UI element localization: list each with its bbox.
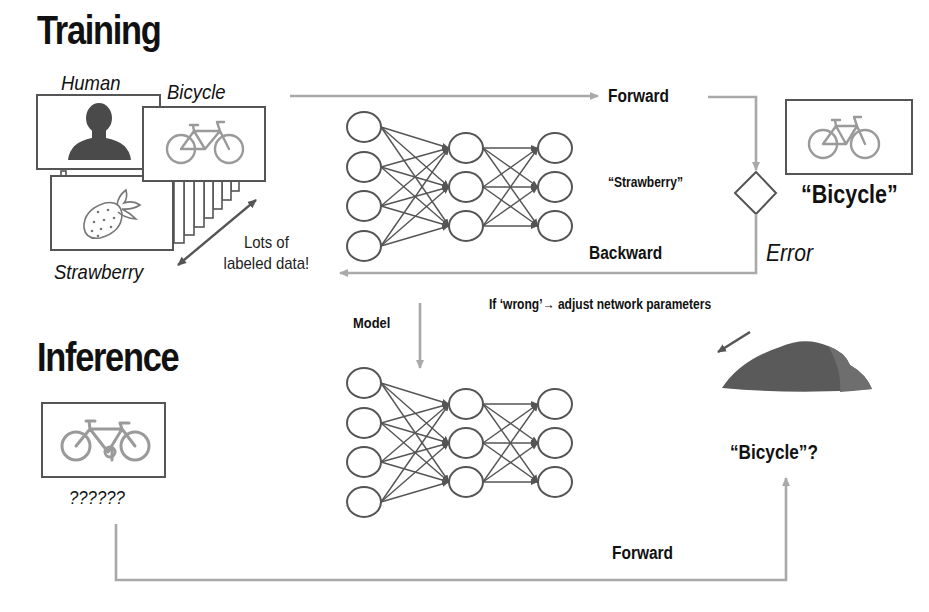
inference-forward-label: Forward (612, 543, 673, 564)
loss-hill-icon (722, 341, 872, 392)
error-label: Error (766, 239, 813, 267)
result-label: “Bicycle”? (730, 441, 818, 464)
unknown-label: ?????? (69, 487, 125, 509)
human-label: Human (61, 71, 121, 95)
forward-label: Forward (608, 86, 669, 107)
bicycle-card (143, 107, 265, 181)
strawberry-label: Strawberry (54, 260, 143, 284)
descent-arrow (718, 332, 750, 352)
inference-forward-arrow (116, 478, 786, 580)
bicycle-label: Bicycle (167, 80, 226, 104)
dataset-note-line1: Lots of (218, 232, 315, 253)
inference-neural-network (347, 368, 572, 517)
backward-label: Backward (589, 243, 662, 264)
diagram-canvas (0, 0, 929, 612)
inference-title: Inference (37, 335, 178, 380)
dataset-note: Lots of labeled data! (218, 232, 315, 274)
model-label: Model (353, 314, 390, 331)
diamond-decision-icon (735, 172, 776, 214)
dataset-note-line2: labeled data! (218, 253, 315, 274)
prediction-label: “Strawberry” (608, 174, 683, 190)
training-title: Training (37, 8, 160, 53)
adjust-note: If ‘wrong’→ adjust network parameters (489, 296, 711, 312)
ground-truth-label: “Bicycle” (801, 180, 898, 209)
training-neural-network (347, 112, 572, 261)
forward-to-compare-arrow (708, 97, 756, 170)
